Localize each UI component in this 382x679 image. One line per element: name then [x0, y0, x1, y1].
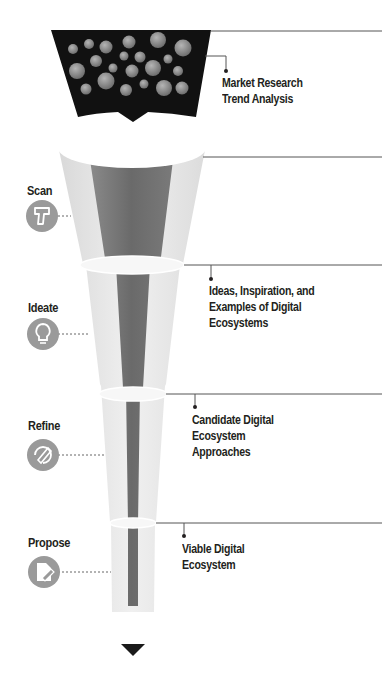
output-viable-ecosystem: Viable Digital Ecosystem: [182, 541, 244, 573]
process-funnel: [58, 128, 206, 656]
digital-ecosystem-funnel-diagram: Scan Ideate Refine Propose Market Resear…: [0, 0, 382, 679]
funnel-graphic: [0, 0, 382, 679]
document-pen-icon: [28, 556, 60, 588]
lightbulb-icon: [27, 318, 59, 350]
funnel-ring-propose: [110, 518, 156, 528]
arrow-tip: [121, 644, 145, 656]
stage-label-refine: Refine: [28, 419, 60, 433]
funnel-ring-ideate: [80, 256, 184, 274]
funnel-rim-top: [58, 128, 206, 168]
bubble-funnel: [51, 30, 211, 122]
refine-pen-icon: [27, 439, 59, 471]
output-ideas: Ideas, Inspiration, and Examples of Digi…: [209, 283, 314, 331]
stage-label-ideate: Ideate: [28, 301, 58, 315]
funnel-ring-refine: [99, 387, 167, 401]
output-candidate-approaches: Candidate Digital Ecosystem Approaches: [192, 412, 274, 460]
barcode-scanner-icon: [26, 200, 58, 232]
output-market-research: Market Research Trend Analysis: [222, 75, 303, 107]
stage-label-scan: Scan: [27, 184, 52, 198]
stage-label-propose: Propose: [28, 536, 70, 550]
